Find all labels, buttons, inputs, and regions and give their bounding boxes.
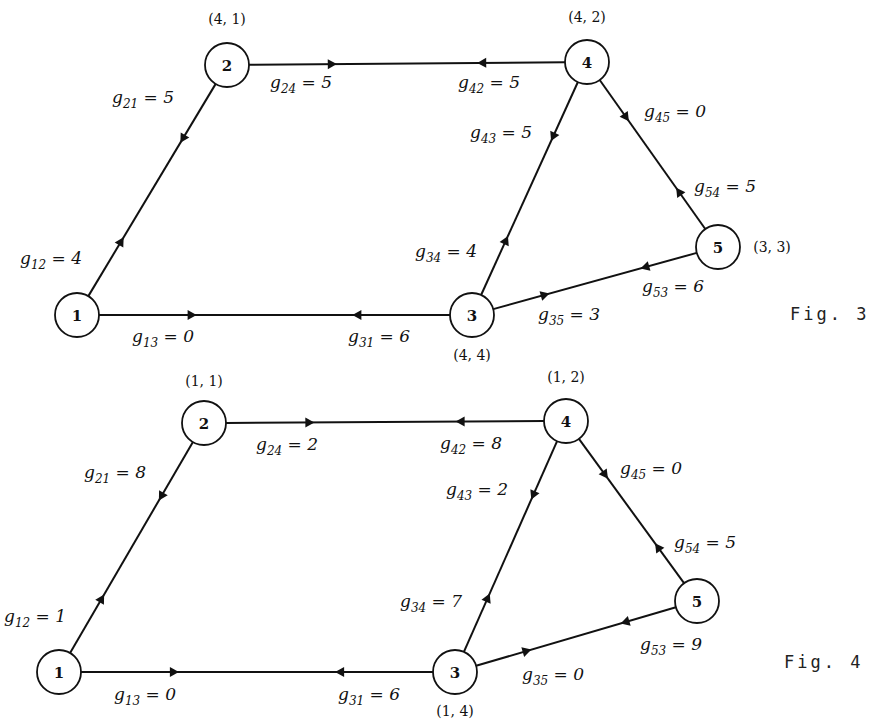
edge-label-g12: g12 = 4	[20, 248, 82, 272]
node-label: 5	[713, 239, 723, 257]
arrowhead-icon	[599, 468, 608, 478]
node-label: 1	[54, 664, 64, 682]
arrowhead-icon	[640, 261, 650, 271]
arrowhead-icon	[477, 58, 486, 68]
node-coord-4: (4, 2)	[568, 9, 606, 25]
edge-label-g42: g42 = 8	[440, 433, 502, 457]
node-coord-2: (1, 1)	[185, 373, 223, 389]
edge-label-g34: g34 = 7	[400, 591, 462, 615]
edge-label-g31: g31 = 6	[338, 684, 400, 708]
arrowhead-icon	[521, 647, 531, 657]
node-label: 2	[222, 57, 232, 75]
edge-label-g12: g12 = 1	[4, 606, 66, 630]
edge-label-g53: g53 = 6	[642, 276, 704, 300]
edge-label-g34: g34 = 4	[415, 241, 477, 265]
edge-label-g13: g13 = 0	[114, 684, 176, 708]
edge-line-1-2	[88, 84, 215, 296]
node-coord-2: (4, 1)	[208, 11, 246, 27]
edge-label-g53: g53 = 9	[640, 634, 702, 658]
edge-label-g43: g43 = 2	[446, 479, 508, 503]
edge-label-g54: g54 = 5	[674, 532, 736, 556]
network-diagrams: g12 = 4g21 = 5g13 = 0g31 = 6g24 = 5g42 =…	[0, 0, 880, 725]
edge-label-g31: g31 = 6	[348, 326, 410, 350]
edge-label-g35: g35 = 3	[538, 304, 600, 328]
edge-line-2-4	[249, 62, 565, 65]
edge-line-3-4	[464, 441, 557, 652]
figure-4: g12 = 1g21 = 8g13 = 0g31 = 6g24 = 2g42 =…	[4, 369, 863, 719]
arrowhead-icon	[328, 59, 337, 69]
figure-caption: Fig. 3	[790, 304, 869, 324]
edge-label-g35: g35 = 0	[522, 664, 584, 688]
edge-label-g54: g54 = 5	[694, 176, 756, 200]
edge-label-g24: g24 = 2	[256, 434, 318, 458]
node-coord-3: (1, 4)	[436, 703, 474, 719]
arrowhead-icon	[170, 667, 179, 677]
edge-label-g45: g45 = 0	[620, 458, 682, 482]
edge-line-2-4	[226, 421, 544, 423]
edge-line-3-4	[481, 82, 578, 295]
node-coord-3: (4, 4)	[453, 347, 491, 363]
edge-label-g43: g43 = 5	[470, 122, 532, 146]
edge-label-g21: g21 = 5	[112, 87, 174, 111]
arrowhead-icon	[621, 616, 631, 626]
edge-line-3-5	[493, 253, 697, 309]
edge-label-g45: g45 = 0	[644, 101, 706, 125]
node-label: 3	[467, 307, 477, 325]
arrowhead-icon	[352, 310, 361, 320]
arrowhead-icon	[188, 310, 197, 320]
node-label: 4	[582, 54, 592, 72]
figure-3: g12 = 4g21 = 5g13 = 0g31 = 6g24 = 5g42 =…	[20, 9, 869, 363]
arrowhead-icon	[620, 111, 629, 121]
arrowhead-icon	[456, 417, 465, 427]
arrowhead-icon	[540, 291, 550, 301]
edge-label-g13: g13 = 0	[132, 326, 194, 350]
arrowhead-icon	[655, 543, 664, 553]
arrowhead-icon	[335, 667, 344, 677]
node-label: 5	[692, 593, 702, 611]
figure-caption: Fig. 4	[784, 652, 863, 672]
node-label: 4	[561, 413, 571, 431]
arrowhead-icon	[305, 417, 314, 427]
node-coord-5: (3, 3)	[753, 239, 791, 255]
edge-label-g24: g24 = 5	[270, 72, 332, 96]
node-coord-4: (1, 2)	[547, 369, 585, 385]
edge-label-g42: g42 = 5	[458, 72, 520, 96]
edge-label-g21: g21 = 8	[84, 462, 146, 486]
node-label: 1	[72, 307, 82, 325]
arrowhead-icon	[676, 188, 685, 198]
node-label: 2	[199, 415, 209, 433]
node-label: 3	[450, 664, 460, 682]
